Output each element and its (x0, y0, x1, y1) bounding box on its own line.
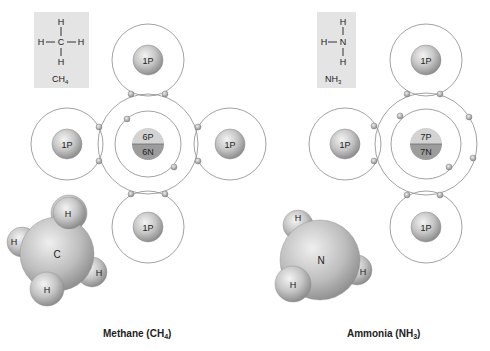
methane-carbon-nucleus: 6P 6N (132, 128, 164, 160)
svg-text:1P: 1P (142, 56, 153, 66)
ammonia-model-h2: H (360, 267, 367, 277)
methane-space-filling-model: C H H H H (7, 195, 107, 306)
methane-hydrogen-right: 1P (215, 129, 245, 159)
methane-model-h3: H (96, 268, 103, 278)
ammonia-space-filling-model: N H H H (275, 210, 372, 302)
svg-text:1P: 1P (339, 140, 350, 150)
methane-formula-h-left: H (38, 37, 45, 47)
ammonia-nitrogen-nucleus: 7P 7N (410, 128, 442, 160)
ammonia-formula-n: N (340, 37, 347, 47)
methane-formula-c: C (58, 37, 65, 47)
ammonia-hydrogen-top: 1P (411, 45, 441, 75)
ammonia-model-h3: H (290, 280, 297, 290)
ammonia-hydrogen-bottom: 1P (411, 212, 441, 242)
ammonia-model-h1: H (295, 213, 302, 223)
methane-hydrogen-left: 1P (52, 129, 82, 159)
methane-formula-h-top: H (58, 17, 65, 27)
ammonia-hydrogen-left: 1P (330, 129, 360, 159)
methane-model-h2: H (11, 237, 18, 247)
methane-model-h1: H (65, 209, 72, 219)
molecule-diagram: H H C H H CH4 6P 6N 1P 1P 1P (0, 0, 490, 351)
ammonia-protons: 7P (420, 132, 431, 142)
ammonia-formula-box: H H N H NH3 (317, 12, 356, 88)
ammonia-caption: Ammonia (NH3) (347, 328, 420, 340)
methane-neutrons: 6N (142, 147, 154, 157)
methane-formula-h-bottom: H (58, 57, 65, 67)
svg-text:1P: 1P (224, 140, 235, 150)
ammonia-formula-h-top: H (340, 17, 347, 27)
svg-text:1P: 1P (420, 56, 431, 66)
svg-text:1P: 1P (420, 223, 431, 233)
ammonia-neutrons: 7N (420, 147, 432, 157)
methane-hydrogen-bottom: 1P (133, 212, 163, 242)
methane-formula-box: H H C H H CH4 (34, 12, 89, 88)
ammonia-formula-h-bottom: H (340, 57, 347, 67)
methane-formula-h-right: H (78, 37, 85, 47)
methane-model-h4: H (44, 285, 51, 295)
methane-protons: 6P (142, 132, 153, 142)
methane-model-c: C (53, 249, 60, 260)
methane-caption: Methane (CH4) (103, 328, 171, 340)
methane-hydrogen-top: 1P (133, 45, 163, 75)
svg-text:1P: 1P (142, 223, 153, 233)
ammonia-model-n: N (317, 255, 324, 266)
ammonia-formula-h-left: H (321, 37, 328, 47)
svg-text:1P: 1P (61, 140, 72, 150)
